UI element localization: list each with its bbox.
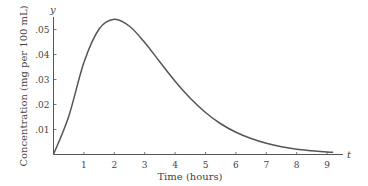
y-tick-label: .05	[35, 25, 50, 35]
y-tick-label: .02	[35, 100, 49, 110]
x-tick-label: 4	[172, 160, 178, 170]
x-tick-label: 5	[203, 160, 209, 170]
y-tick-label: .03	[35, 75, 50, 85]
x-tick-label: 9	[324, 160, 330, 170]
x-tick-label: 2	[111, 160, 117, 170]
concentration-chart: 123456789 .01.02.03.04.05 y t Time (hour…	[0, 0, 368, 186]
y-tick-label: .01	[35, 125, 49, 135]
x-axis-variable: t	[347, 149, 352, 160]
x-tick-label: 6	[233, 160, 239, 170]
y-tick-label: .04	[35, 50, 50, 60]
x-tick-label: 8	[294, 160, 300, 170]
y-axis-label: Concentration (mg per 100 mL)	[18, 5, 29, 166]
concentration-curve	[54, 19, 334, 154]
x-tick-label: 1	[81, 160, 87, 170]
y-axis-variable: y	[49, 4, 56, 15]
x-tick-label: 7	[263, 160, 269, 170]
axes	[54, 17, 344, 155]
x-tick-label: 3	[142, 160, 148, 170]
x-axis-label: Time (hours)	[157, 171, 222, 182]
